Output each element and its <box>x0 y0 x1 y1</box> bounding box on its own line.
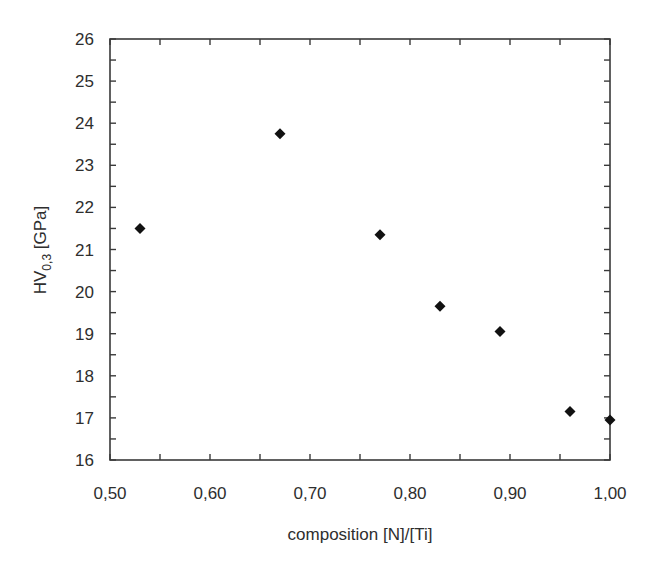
data-point-diamond <box>605 415 616 426</box>
data-point-diamond <box>495 326 506 337</box>
x-tick-label: 0,80 <box>393 484 426 503</box>
x-tick-label: 0,60 <box>193 484 226 503</box>
data-point-diamond <box>275 128 286 139</box>
x-tick-label: 1,00 <box>593 484 626 503</box>
y-tick-label: 26 <box>75 30 94 49</box>
x-axis-title: composition [N]/[Ti] <box>288 525 433 544</box>
x-tick-label: 0,90 <box>493 484 526 503</box>
data-point-diamond <box>435 301 446 312</box>
y-tick-label: 18 <box>75 367 94 386</box>
data-point-diamond <box>135 223 146 234</box>
y-tick-label: 23 <box>75 156 94 175</box>
scatter-chart: 1617181920212223242526 0,500,600,700,800… <box>0 0 656 573</box>
y-axis-title-subscript: 0,3 <box>40 254 54 271</box>
y-tick-label: 17 <box>75 409 94 428</box>
y-tick-labels: 1617181920212223242526 <box>75 30 94 470</box>
data-points <box>135 128 616 425</box>
y-axis-title-unit: [GPa] <box>31 206 50 254</box>
y-tick-label: 16 <box>75 451 94 470</box>
y-axis-title-main: HV <box>31 270 50 294</box>
y-tick-label: 21 <box>75 241 94 260</box>
y-tick-label: 20 <box>75 283 94 302</box>
x-tick-label: 0,50 <box>93 484 126 503</box>
y-tick-label: 24 <box>75 114 94 133</box>
y-tick-label: 22 <box>75 198 94 217</box>
data-point-diamond <box>565 406 576 417</box>
x-tick-label: 0,70 <box>293 484 326 503</box>
plot-frame <box>110 39 610 460</box>
x-tick-labels: 0,500,600,700,800,901,00 <box>93 484 626 503</box>
data-point-diamond <box>375 229 386 240</box>
y-tick-label: 19 <box>75 325 94 344</box>
axis-ticks <box>110 39 610 460</box>
y-axis-title: HV0,3 [GPa] <box>31 206 54 295</box>
y-tick-label: 25 <box>75 72 94 91</box>
